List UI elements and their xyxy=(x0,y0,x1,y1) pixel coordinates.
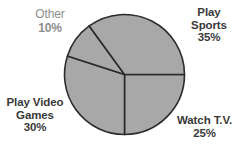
pie-label-play-sports-value: 35% xyxy=(179,31,239,44)
pie-label-play-video-games-value: 30% xyxy=(0,121,70,134)
pie-label-other: Other 10% xyxy=(26,8,74,35)
pie-label-watch-tv-value: 25% xyxy=(167,127,242,140)
pie-label-play-sports: Play Sports 35% xyxy=(179,6,239,44)
pie-label-watch-tv: Watch T.V. 25% xyxy=(167,114,242,139)
pie-label-other-value: 10% xyxy=(26,22,74,36)
pie-label-play-sports-line1: Play xyxy=(179,6,239,19)
pie-label-play-video-games: Play Video Games 30% xyxy=(0,96,70,134)
pie-label-play-video-games-line1: Play Video xyxy=(0,96,70,109)
pie-label-watch-tv-line1: Watch T.V. xyxy=(167,114,242,127)
pie-label-play-video-games-line2: Games xyxy=(0,109,70,122)
pie-label-other-line1: Other xyxy=(26,8,74,22)
pie-label-play-sports-line2: Sports xyxy=(179,19,239,32)
pie-chart: Play Sports 35% Watch T.V. 25% Play Vide… xyxy=(0,0,242,149)
